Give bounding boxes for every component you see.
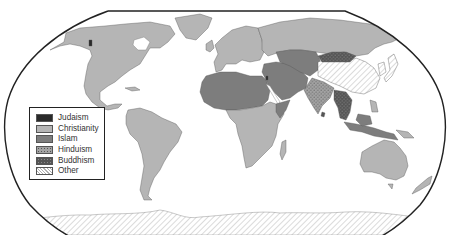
legend-label: Hinduism bbox=[58, 145, 92, 155]
region-antarctica bbox=[0, 210, 450, 235]
region-islam-north-africa bbox=[200, 72, 270, 110]
swatch-christianity-icon bbox=[36, 125, 53, 133]
region-sri-lanka bbox=[321, 112, 325, 117]
region-uk bbox=[206, 40, 214, 52]
region-southeast-asia bbox=[334, 90, 352, 120]
legend-label: Judaism bbox=[58, 113, 89, 123]
swatch-hinduism-icon bbox=[36, 146, 53, 154]
legend-label: Islam bbox=[58, 134, 78, 144]
swatch-other-icon bbox=[36, 167, 53, 175]
region-japan bbox=[384, 54, 398, 82]
region-australia bbox=[360, 140, 408, 180]
region-russia bbox=[258, 18, 400, 56]
swatch-buddhism-icon bbox=[36, 157, 53, 165]
world-religion-map: Judaism Christianity Islam Hinduism Budd… bbox=[0, 0, 450, 235]
legend-item-other: Other bbox=[36, 166, 104, 177]
swatch-judaism-icon bbox=[36, 114, 53, 122]
region-korea bbox=[378, 62, 386, 76]
swatch-islam-icon bbox=[36, 135, 53, 143]
region-greenland bbox=[175, 14, 212, 40]
region-caribbean bbox=[125, 87, 140, 91]
legend-label: Other bbox=[58, 166, 78, 176]
region-israel bbox=[266, 76, 268, 80]
region-papua bbox=[396, 130, 414, 138]
legend-item-christianity: Christianity bbox=[36, 124, 104, 135]
region-indonesia-malaysia bbox=[344, 122, 398, 140]
legend-label: Buddhism bbox=[58, 156, 94, 166]
legend-label: Christianity bbox=[58, 124, 99, 134]
region-tasmania bbox=[388, 184, 393, 189]
legend-item-buddhism: Buddhism bbox=[36, 155, 104, 166]
region-borneo bbox=[356, 114, 372, 126]
legend-item-islam: Islam bbox=[36, 134, 104, 145]
legend-item-judaism: Judaism bbox=[36, 113, 104, 124]
region-europe bbox=[214, 26, 264, 72]
region-north-america bbox=[50, 22, 175, 110]
region-philippines bbox=[370, 100, 378, 112]
region-south-america bbox=[126, 108, 182, 200]
legend-item-hinduism: Hinduism bbox=[36, 145, 104, 156]
region-madagascar bbox=[280, 140, 286, 160]
legend: Judaism Christianity Islam Hinduism Budd… bbox=[29, 107, 105, 180]
region-india bbox=[304, 78, 334, 114]
region-judaism-marker-na bbox=[89, 40, 92, 46]
region-sub-saharan-africa bbox=[226, 102, 284, 168]
